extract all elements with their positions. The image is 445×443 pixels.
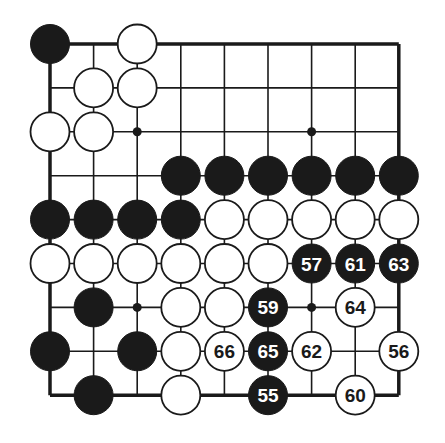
move-number-label: 66 [214,341,235,362]
stone-disc [31,112,70,151]
white-stone [336,200,375,239]
white-stone [74,244,113,283]
black-stone-move-59: 59 [249,288,288,327]
white-stone [118,244,157,283]
stone-disc [31,200,70,239]
star-point [307,303,316,312]
stone-disc [74,68,113,107]
stone-disc [379,156,418,195]
white-stone [161,244,200,283]
black-stone [205,156,244,195]
white-stone [31,112,70,151]
star-point [133,303,142,312]
stone-disc [205,288,244,327]
move-number-label: 61 [345,254,367,275]
black-stone [31,200,70,239]
black-stone-move-63: 63 [379,244,418,283]
go-board-diagram: 5761635964666562565560 [0,0,445,443]
white-stone [205,200,244,239]
stone-disc [161,200,200,239]
white-stone [74,112,113,151]
black-stone [74,288,113,327]
black-stone [118,332,157,371]
white-stone-move-60: 60 [336,376,375,415]
black-stone [74,200,113,239]
white-stone [292,200,331,239]
move-number-label: 57 [301,254,322,275]
stone-disc [205,156,244,195]
black-stone [379,156,418,195]
white-stone-move-66: 66 [205,332,244,371]
black-stone-move-57: 57 [292,244,331,283]
move-number-label: 55 [257,385,279,406]
stone-disc [249,156,288,195]
move-number-label: 62 [301,341,322,362]
stone-disc [118,244,157,283]
stone-disc [205,200,244,239]
move-number-label: 64 [345,297,367,318]
stone-disc [249,244,288,283]
stone-disc [74,200,113,239]
black-stone [336,156,375,195]
move-number-label: 63 [388,254,409,275]
white-stone [379,200,418,239]
black-stone [292,156,331,195]
white-stone [249,200,288,239]
white-stone [161,376,200,415]
move-number-label: 59 [257,297,278,318]
black-stone [118,200,157,239]
white-stone [74,68,113,107]
white-stone [249,244,288,283]
star-point [133,127,142,136]
white-stone [205,244,244,283]
stone-disc [249,200,288,239]
black-stone [161,200,200,239]
white-stone [205,288,244,327]
white-stone [161,288,200,327]
stone-disc [118,25,157,64]
black-stone-move-65: 65 [249,332,288,371]
move-number-label: 60 [345,385,366,406]
black-stone [74,376,113,415]
stone-disc [74,244,113,283]
stone-disc [161,288,200,327]
stone-disc [31,332,70,371]
stone-disc [118,68,157,107]
white-stone [31,244,70,283]
star-point [307,127,316,136]
stone-disc [74,376,113,415]
move-number-label: 65 [257,341,279,362]
go-board: 5761635964666562565560 [0,0,445,443]
black-stone-move-55: 55 [249,376,288,415]
stone-disc [118,200,157,239]
stone-disc [379,200,418,239]
stone-disc [292,156,331,195]
stone-disc [74,288,113,327]
stone-disc [31,244,70,283]
black-stone [31,332,70,371]
black-stone [31,25,70,64]
move-number-label: 56 [388,341,409,362]
stone-disc [292,200,331,239]
white-stone [118,25,157,64]
stone-disc [205,244,244,283]
black-stone [161,156,200,195]
white-stone-move-62: 62 [292,332,331,371]
black-stone [249,156,288,195]
stone-disc [31,25,70,64]
stone-disc [161,244,200,283]
white-stone-move-56: 56 [379,332,418,371]
stone-disc [74,112,113,151]
white-stone-move-64: 64 [336,288,375,327]
stone-disc [336,200,375,239]
white-stone [118,68,157,107]
stone-disc [161,376,200,415]
stone-disc [118,332,157,371]
stone-disc [161,156,200,195]
stone-disc [161,332,200,371]
stone-disc [336,156,375,195]
black-stone-move-61: 61 [336,244,375,283]
white-stone [161,332,200,371]
